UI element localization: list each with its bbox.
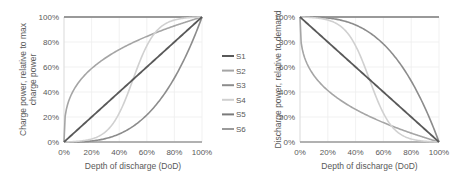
series-line-s1 — [300, 17, 439, 142]
legend-item-s4: S4 — [222, 96, 246, 105]
y-tick-label: 0% — [283, 138, 295, 147]
discharge-power-chart: 0%20%40%60%80%100%0%20%40%60%80%100%Dept… — [273, 10, 449, 171]
legend-item-s6: S6 — [222, 125, 246, 134]
x-tick-label: 40% — [111, 148, 127, 157]
x-tick-label: 80% — [403, 148, 419, 157]
y-tick-label: 80% — [43, 38, 59, 47]
legend-label: S5 — [236, 110, 246, 119]
legend-label: S4 — [236, 96, 246, 105]
x-tick-label: 80% — [166, 148, 182, 157]
y-tick-label: 40% — [43, 88, 59, 97]
series-line-s1 — [64, 17, 202, 142]
charts-canvas: 0%20%40%60%80%100%0%20%40%60%80%100%Dept… — [0, 0, 465, 181]
charge-power-chart: 0%20%40%60%80%100%0%20%40%60%80%100%Dept… — [18, 13, 212, 171]
y-tick-label: 60% — [43, 63, 59, 72]
y-tick-label: 100% — [39, 13, 59, 22]
legend-label: S1 — [236, 52, 246, 61]
legend-item-s5: S5 — [222, 110, 246, 119]
x-tick-label: 20% — [320, 148, 336, 157]
x-tick-label: 20% — [84, 148, 100, 157]
x-tick-label: 0% — [294, 148, 306, 157]
x-tick-label: 0% — [58, 148, 70, 157]
legend-item-s1: S1 — [222, 52, 246, 61]
legend-label: S3 — [236, 81, 246, 90]
y-axis-title: charge power — [28, 54, 38, 106]
legend-label: S2 — [236, 67, 246, 76]
x-axis-title: Depth of discharge (DoD) — [321, 161, 418, 171]
y-axis-title: Charge power, relative to max — [18, 22, 28, 136]
x-tick-label: 60% — [139, 148, 155, 157]
y-tick-label: 0% — [47, 138, 59, 147]
x-tick-label: 60% — [375, 148, 391, 157]
legend-item-s3: S3 — [222, 81, 246, 90]
legend-item-s2: S2 — [222, 67, 246, 76]
x-tick-label: 40% — [348, 148, 364, 157]
y-axis-title: Discharge power, relative to demand — [273, 10, 283, 148]
x-tick-label: 100% — [429, 148, 449, 157]
legend: S1S2S3S4S5S6 — [222, 52, 246, 134]
legend-label: S6 — [236, 125, 246, 134]
x-tick-label: 100% — [192, 148, 212, 157]
y-tick-label: 20% — [43, 113, 59, 122]
x-axis-title: Depth of discharge (DoD) — [85, 161, 182, 171]
